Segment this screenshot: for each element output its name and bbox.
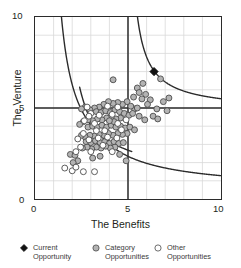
legend-label-line1: Current: [33, 243, 71, 252]
legend-item-other-opportunities[interactable]: Other Opportunities: [167, 243, 211, 261]
legend-item-category-opportunities[interactable]: Category Opportunities: [105, 243, 149, 261]
y-tick-label-0: 0: [19, 195, 24, 205]
legend-item-current-opportunity[interactable]: Current Opportunity: [33, 243, 71, 261]
plot-area: [34, 16, 222, 200]
legend-label-line1: Category: [105, 243, 149, 252]
x-axis-title: The Benefits: [0, 218, 241, 230]
legend-label-line1: Other: [167, 243, 211, 252]
chart-title-clipped: [0, 0, 241, 6]
legend-label-line2: Opportunities: [167, 252, 211, 261]
x-tick-label-10: 10: [213, 204, 224, 214]
y-axis-title: The Venture: [11, 43, 23, 153]
x-tick-label-5: 5: [125, 204, 130, 214]
chart-root: 10 5 0 0 5 10 The Benefits The Venture C…: [0, 0, 241, 268]
diamond-marker-icon: [20, 244, 28, 252]
legend: Current Opportunity Category Opportuniti…: [0, 241, 241, 268]
legend-label-line2: Opportunity: [33, 252, 71, 261]
y-tick-label-10: 10: [12, 11, 23, 21]
data-points: [35, 17, 221, 199]
gray-circle-marker-icon: [92, 244, 100, 252]
white-circle-marker-icon: [154, 244, 162, 252]
x-tick-label-0: 0: [31, 204, 36, 214]
legend-label-line2: Opportunities: [105, 252, 149, 261]
